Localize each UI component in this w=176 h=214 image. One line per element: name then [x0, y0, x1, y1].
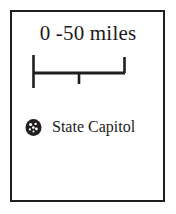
scale-title-label: 0 -50 miles — [0, 20, 176, 46]
legend-item-label: State Capitol — [52, 117, 135, 137]
map-scale-legend: 0 -50 miles State Capitol — [0, 0, 176, 214]
legend-item-state-capitol: State Capitol — [25, 115, 155, 139]
state-capitol-dot-icon — [25, 119, 42, 136]
